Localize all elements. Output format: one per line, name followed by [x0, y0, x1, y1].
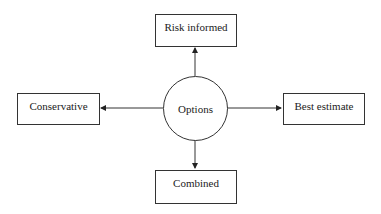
node-conservative: Conservative — [17, 93, 100, 125]
center-node-options: Options — [163, 76, 228, 141]
node-label: Conservative — [29, 100, 87, 112]
center-label: Options — [178, 103, 213, 115]
node-best-estimate: Best estimate — [283, 93, 365, 125]
node-label: Best estimate — [295, 100, 354, 112]
node-label: Combined — [173, 177, 219, 189]
node-combined: Combined — [155, 170, 237, 204]
node-risk-informed: Risk informed — [155, 14, 237, 47]
node-label: Risk informed — [164, 21, 227, 33]
